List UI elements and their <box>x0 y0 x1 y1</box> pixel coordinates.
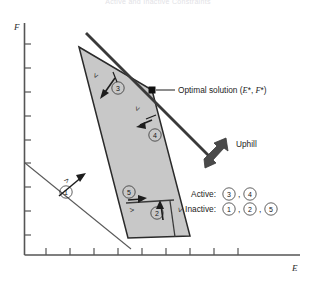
legend-inactive-badge-2: 2 <box>244 203 256 215</box>
legend-active-badge-4: 4 <box>244 188 256 200</box>
constraint-1-inequality-glyph: > <box>62 176 72 186</box>
constraint-4-badge-number: 4 <box>153 132 157 139</box>
legend-row-inactive: Inactive: 1 , 2 , 5 <box>185 203 277 215</box>
legend-inactive-separator-2: , <box>259 204 261 214</box>
optimal-label-suffix: ) <box>264 85 267 95</box>
legend-inactive-badge-1: 1 <box>223 203 235 215</box>
legend-row-active: Active: 3 , 4 <box>191 188 256 200</box>
legend-inactive-label: Inactive: <box>185 204 216 214</box>
uphill-group: Uphill <box>204 138 257 168</box>
optimal-label-prefix: Optimal solution ( <box>178 85 243 95</box>
constraint-3-badge-number: 3 <box>116 85 120 92</box>
figure-root: Active and Inactive Constraints <box>0 0 316 281</box>
legend-inactive-badge-1-number: 1 <box>227 206 231 213</box>
optimal-solution-point <box>149 87 156 94</box>
constraint-2-badge-number: 2 <box>155 210 159 217</box>
constraint-5-badge-number: 5 <box>127 189 131 196</box>
x-axis-ticks <box>46 248 238 255</box>
optimal-solution-label: Optimal solution (E*, F*) <box>178 85 267 95</box>
y-axis-label: F <box>13 22 20 32</box>
uphill-label: Uphill <box>236 139 257 149</box>
legend-active-badge-3: 3 <box>223 188 235 200</box>
legend-inactive-separator-1: , <box>238 204 240 214</box>
legend-active-separator-1: , <box>238 189 240 199</box>
legend-inactive-badge-5-number: 5 <box>269 206 273 213</box>
legend-inactive-badge-5: 5 <box>265 203 277 215</box>
lp-feasible-region-diagram: F E > 1 < <box>0 0 316 281</box>
optimal-solution-group: Optimal solution (E*, F*) <box>149 85 267 95</box>
constraint-status-legend: Active: 3 , 4 Inactive: 1 , <box>185 188 277 215</box>
legend-active-label: Active: <box>191 189 216 199</box>
legend-active-badge-4-number: 4 <box>248 191 252 198</box>
legend-active-badge-3-number: 3 <box>227 191 231 198</box>
y-axis-ticks <box>25 44 32 235</box>
x-axis-label: E <box>291 263 298 273</box>
constraint-1-badge-number: 1 <box>64 189 68 196</box>
legend-inactive-badge-2-number: 2 <box>248 206 252 213</box>
